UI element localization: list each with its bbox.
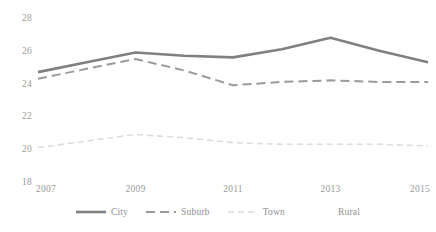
x-axis: 20072009201120132015 [0, 184, 436, 200]
series-line [38, 59, 428, 85]
legend-item[interactable]: Town [228, 207, 285, 218]
legend-line-icon [228, 207, 258, 217]
plot-area [38, 18, 428, 182]
y-tick-label: 24 [22, 79, 32, 89]
legend-item[interactable]: Rural [303, 207, 360, 218]
y-tick-label: 28 [22, 13, 32, 23]
chart-legend: CitySuburbTownRural [0, 203, 436, 221]
legend-line-icon [303, 207, 333, 217]
legend-item[interactable]: City [76, 207, 128, 218]
line-chart: 282624222018 20072009201120132015 CitySu… [0, 0, 436, 232]
y-tick-label: 22 [22, 111, 32, 121]
legend-label: Rural [338, 207, 360, 218]
legend-line-icon [146, 207, 176, 217]
plot-svg [38, 18, 428, 182]
x-tick-label: 2013 [321, 184, 341, 195]
y-tick-label: 20 [22, 144, 32, 154]
x-tick-label: 2015 [410, 184, 430, 195]
y-tick-label: 26 [22, 46, 32, 56]
legend-label: Town [263, 207, 285, 218]
legend-line-icon [76, 207, 106, 217]
legend-label: City [111, 207, 128, 218]
legend-item[interactable]: Suburb [146, 207, 210, 218]
y-axis: 282624222018 [0, 0, 38, 200]
series-line [38, 134, 428, 147]
x-tick-label: 2009 [126, 184, 146, 195]
legend-label: Suburb [181, 207, 210, 218]
x-tick-label: 2011 [223, 184, 242, 195]
x-tick-label: 2007 [36, 184, 56, 195]
